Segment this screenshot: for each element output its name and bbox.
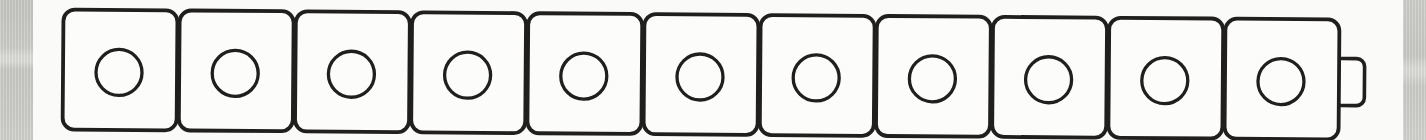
cube-body (992, 17, 1107, 138)
cube-body (411, 12, 526, 133)
linking-cube (760, 15, 875, 136)
linking-cube (527, 13, 642, 134)
cube-body (179, 10, 294, 131)
linking-cube (411, 12, 526, 133)
cube-train-figure (0, 0, 1426, 140)
cube-train (63, 10, 1365, 140)
cube-body (644, 14, 759, 135)
linking-cube (1225, 19, 1340, 140)
cube-body (63, 10, 178, 131)
linking-cube (295, 11, 410, 132)
linking-cube (992, 17, 1107, 138)
cube-body (876, 16, 991, 137)
linking-cube (1108, 18, 1223, 139)
linking-cube (179, 10, 294, 131)
cube-body (527, 13, 642, 134)
cube-body (295, 11, 410, 132)
linking-cube (876, 16, 991, 137)
cube-body (1108, 18, 1223, 139)
scanned-worksheet-strip (0, 0, 1426, 140)
linking-cube (644, 14, 759, 135)
cube-body (760, 15, 875, 136)
linking-cube (63, 10, 178, 131)
cube-body (1225, 19, 1340, 140)
